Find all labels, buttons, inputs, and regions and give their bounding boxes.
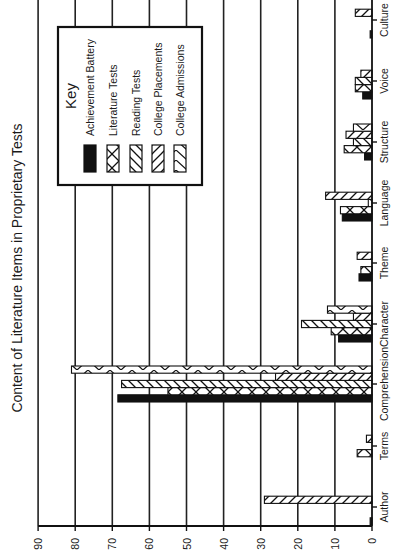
legend-swatch <box>107 145 119 172</box>
bar <box>118 395 372 402</box>
legend-label: Literature Tests <box>107 64 119 136</box>
bar <box>365 153 372 160</box>
chart-title: Content of Literature Items in Proprieta… <box>9 123 25 412</box>
legend-title: Key <box>62 83 79 109</box>
legend-swatch <box>130 145 142 172</box>
bar <box>361 70 372 77</box>
bar <box>346 131 372 138</box>
bar <box>363 92 372 99</box>
bar <box>339 335 372 342</box>
bar <box>342 214 372 221</box>
bar <box>122 380 372 387</box>
bar <box>340 207 372 214</box>
value-tick-label: 80 <box>69 538 81 550</box>
category-label: Language <box>378 179 390 226</box>
value-tick-label: 60 <box>143 538 155 550</box>
category-label: Culture <box>378 3 390 37</box>
value-tick-label: 50 <box>181 538 193 550</box>
category-label: Theme <box>378 247 390 280</box>
legend-swatch <box>152 145 164 172</box>
bar <box>353 138 372 145</box>
legend-label: Achievement Battery <box>84 38 96 136</box>
bar <box>353 124 372 131</box>
category-label: Voice <box>378 68 390 94</box>
bar <box>353 313 372 320</box>
bar <box>326 192 372 199</box>
value-tick-label: 0 <box>366 538 378 544</box>
bar <box>71 366 372 373</box>
bar <box>276 373 372 380</box>
legend: Key Achievement BatteryLiterature TestsR… <box>58 27 202 185</box>
value-tick-label: 40 <box>218 538 230 550</box>
value-tick-label: 10 <box>329 538 341 550</box>
category-label: Terms <box>378 432 390 461</box>
legend-label: Reading Tests <box>130 70 142 136</box>
value-tick-label: 30 <box>255 538 267 550</box>
value-tick-label: 70 <box>106 538 118 550</box>
bar-chart: 0102030405060708090 AuthorTermsComprehen… <box>0 0 401 554</box>
bar <box>361 267 372 274</box>
bar <box>355 9 372 16</box>
bar <box>264 496 372 503</box>
value-tick-label: 20 <box>292 538 304 550</box>
bar <box>355 85 372 92</box>
bar <box>357 450 372 457</box>
category-label: Character <box>378 300 390 347</box>
category-label: Structure <box>378 121 390 164</box>
value-tick-labels: 0102030405060708090 <box>32 538 378 550</box>
legend-swatch <box>84 145 96 172</box>
bar <box>168 388 372 395</box>
bar <box>344 146 372 153</box>
category-labels: AuthorTermsComprehensionCharacterThemeLa… <box>378 3 390 523</box>
category-label: Comprehension <box>378 347 390 421</box>
bar <box>359 274 372 281</box>
legend-label: College Admissions <box>174 44 186 136</box>
value-tick-label: 90 <box>32 538 44 550</box>
bar <box>357 252 372 259</box>
category-label: Author <box>378 491 390 522</box>
bar <box>302 320 372 327</box>
bar <box>331 328 372 335</box>
legend-swatch <box>174 145 186 172</box>
legend-label: College Placements <box>152 43 164 136</box>
bar <box>327 306 372 313</box>
bar <box>355 77 372 84</box>
